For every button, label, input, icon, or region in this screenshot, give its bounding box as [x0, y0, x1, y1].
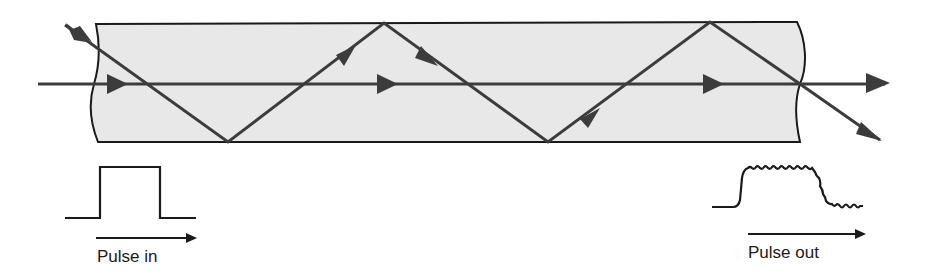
fiber-body — [91, 22, 806, 142]
pulse-in-label: Pulse in — [97, 247, 157, 267]
arrowhead-icon — [866, 73, 890, 93]
arrowhead-icon — [855, 229, 866, 239]
pulse-out-waveform — [712, 166, 866, 239]
pulse-in-waveform — [65, 167, 197, 243]
arrowhead-icon — [186, 233, 197, 243]
arrowhead-icon — [856, 122, 882, 141]
arrowhead-icon — [66, 23, 92, 43]
fiber-dispersion-diagram — [0, 0, 931, 273]
pulse-out-label: Pulse out — [748, 243, 819, 263]
